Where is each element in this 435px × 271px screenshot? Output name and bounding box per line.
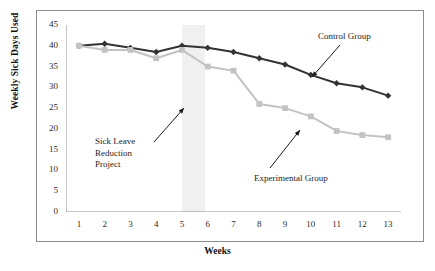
x-tick-label: 1 [68, 219, 90, 229]
data-point-marker [385, 134, 391, 140]
x-tick-label: 9 [274, 219, 296, 229]
data-point-marker [101, 41, 107, 47]
data-point-marker [256, 55, 262, 61]
y-tick-label: 15 [36, 144, 58, 154]
x-tick-label: 10 [300, 219, 322, 229]
x-tick-label: 6 [197, 219, 219, 229]
data-point-marker [359, 132, 365, 138]
data-point-marker [179, 47, 185, 53]
x-tick-label: 8 [248, 219, 270, 229]
data-point-marker [256, 101, 262, 107]
y-tick-label: 30 [36, 81, 58, 91]
arrow-control-group [312, 45, 340, 77]
x-tick-label: 12 [351, 219, 373, 229]
x-tick-label: 4 [145, 219, 167, 229]
annotation-sick-leave-reduction-project: Sick Leave Reduction Project [95, 136, 135, 171]
data-point-marker [153, 55, 159, 61]
data-point-marker [385, 92, 391, 98]
y-tick-label: 0 [36, 206, 58, 216]
data-point-marker [205, 45, 211, 51]
data-point-marker [128, 47, 134, 53]
y-tick-label: 35 [36, 61, 58, 71]
annotation-experimental-group: Experimental Group [254, 173, 328, 185]
chart-figure: Weekly Sick Days Used Weeks 454035302520… [0, 0, 435, 271]
x-tick-label: 11 [326, 219, 348, 229]
x-tick-label: 2 [94, 219, 116, 229]
data-point-marker [282, 61, 288, 67]
y-axis-title: Weekly Sick Days Used [10, 1, 20, 121]
x-axis-title: Weeks [0, 246, 435, 256]
y-tick-label: 25 [36, 102, 58, 112]
y-tick-label: 10 [36, 164, 58, 174]
data-point-marker [153, 49, 159, 55]
data-point-marker [359, 84, 365, 90]
series-line-experimental-group [79, 46, 388, 137]
y-tick-label: 45 [36, 19, 58, 29]
arrow-experimental-group [270, 130, 300, 168]
y-tick-label: 5 [36, 185, 58, 195]
data-point-marker [230, 49, 236, 55]
annotation-control-group: Control Group [318, 31, 371, 43]
data-point-marker [76, 43, 82, 49]
data-point-marker [205, 64, 211, 70]
x-tick-label: 3 [119, 219, 141, 229]
data-point-marker [231, 68, 237, 74]
data-point-marker [308, 114, 314, 120]
x-tick-label: 13 [377, 219, 399, 229]
data-point-marker [102, 47, 108, 53]
data-point-marker [334, 128, 340, 134]
data-point-marker [333, 80, 339, 86]
data-point-marker [282, 105, 288, 111]
arrow-sick-leave [154, 108, 184, 142]
y-tick-label: 20 [36, 123, 58, 133]
plot-area [66, 25, 401, 212]
plot-svg [66, 25, 401, 212]
x-tick-label: 5 [171, 219, 193, 229]
y-tick-label: 40 [36, 40, 58, 50]
x-tick-label: 7 [223, 219, 245, 229]
